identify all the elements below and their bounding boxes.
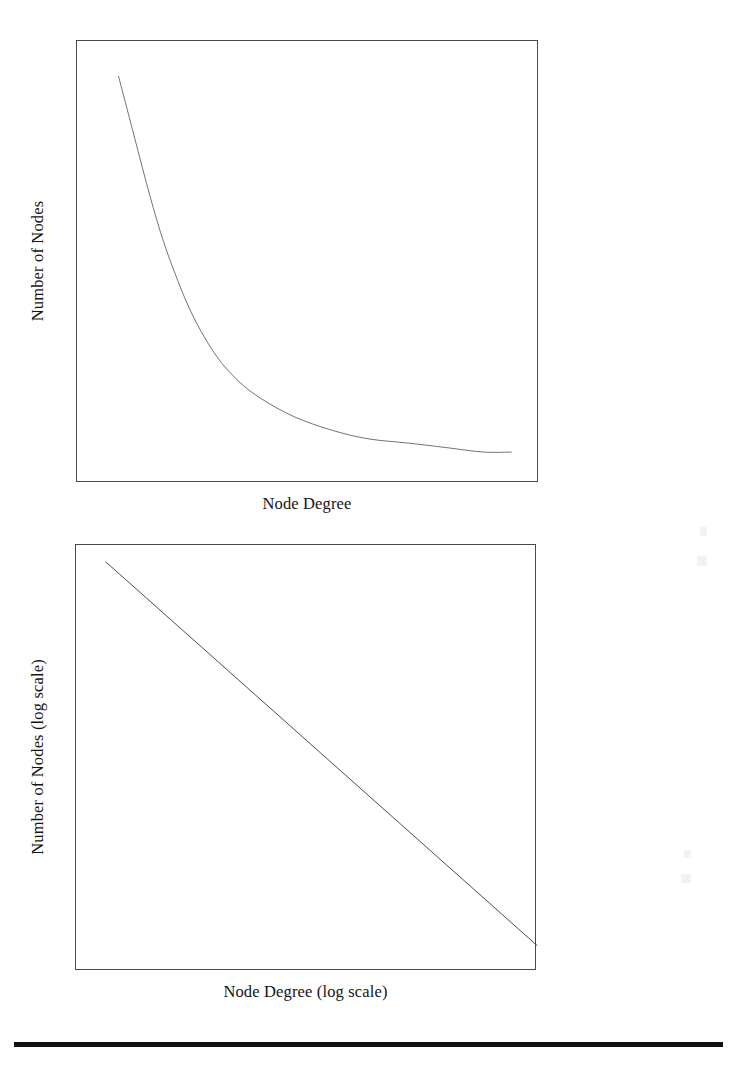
y-axis-label-container-log: Number of Nodes (log scale): [16, 544, 60, 970]
x-axis-label-log: Node Degree (log scale): [75, 982, 536, 1002]
figure-root: Number of Nodes Node Degree Number of No…: [0, 0, 740, 1068]
scan-artifact: [684, 850, 691, 858]
y-axis-label-linear: Number of Nodes: [28, 201, 48, 321]
plot-area-linear: [76, 40, 538, 482]
plot-curve-log: [76, 545, 537, 971]
scan-artifact: [700, 527, 707, 536]
y-axis-label-log: Number of Nodes (log scale): [28, 659, 48, 855]
y-axis-label-container-linear: Number of Nodes: [16, 40, 60, 482]
plot-area-log: [75, 544, 536, 970]
scan-artifact: [681, 874, 691, 883]
power-law-curve: [119, 76, 512, 452]
scan-artifact: [697, 556, 707, 566]
plot-curve-linear: [77, 41, 539, 483]
footer-divider-rule: [14, 1042, 723, 1047]
power-law-line: [106, 562, 537, 945]
x-axis-label-linear: Node Degree: [76, 494, 538, 514]
